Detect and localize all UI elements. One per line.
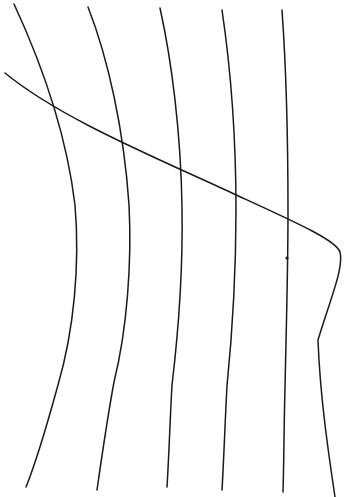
figure-root bbox=[0, 0, 346, 497]
ink-blob-artifact bbox=[285, 256, 288, 259]
canvas-background bbox=[0, 0, 346, 497]
concentric-arcs-canvas bbox=[0, 0, 346, 497]
